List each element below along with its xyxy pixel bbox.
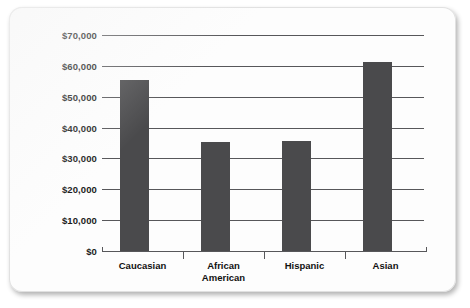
x-axis-tick-3 xyxy=(345,252,346,259)
x-axis-tick-2 xyxy=(264,252,265,259)
chart-screen: $70,000 $60,000 $50,000 $40,000 $30,000 … xyxy=(0,0,470,308)
x-axis-label-hispanic: Hispanic xyxy=(264,260,345,272)
y-axis-label-30000: $30,000 xyxy=(13,153,97,164)
x-axis-label-caucasian: Caucasian xyxy=(102,260,183,272)
y-axis-label-10000: $10,000 xyxy=(13,215,97,226)
x-axis-tick-1 xyxy=(183,252,184,259)
y-axis-label-20000: $20,000 xyxy=(13,184,97,195)
y-axis-label-70000: $70,000 xyxy=(13,30,97,41)
x-axis-label-asian: Asian xyxy=(345,260,426,272)
y-axis-label-0: $0 xyxy=(13,246,97,257)
y-axis-labels: $70,000 $60,000 $50,000 $40,000 $30,000 … xyxy=(9,7,97,308)
x-axis-right-endcap xyxy=(426,247,427,252)
bar-hispanic xyxy=(282,141,311,251)
bars-layer xyxy=(102,35,424,251)
bar-caucasian xyxy=(120,80,149,251)
y-axis-label-40000: $40,000 xyxy=(13,123,97,134)
chart-card: $70,000 $60,000 $50,000 $40,000 $30,000 … xyxy=(9,7,456,292)
bar-african-american xyxy=(201,142,230,251)
x-axis-left-endcap xyxy=(102,247,103,252)
bar-asian xyxy=(363,62,392,251)
y-axis-label-60000: $60,000 xyxy=(13,61,97,72)
x-axis-label-african-american: African American xyxy=(183,260,264,284)
y-axis-label-50000: $50,000 xyxy=(13,92,97,103)
